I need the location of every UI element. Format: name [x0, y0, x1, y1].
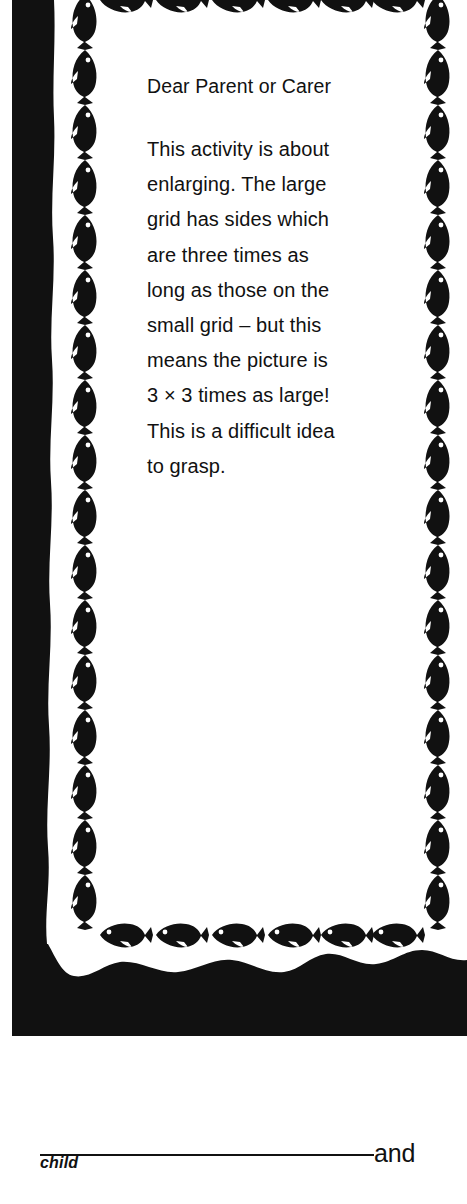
- fish-icon: [268, 0, 321, 12]
- fish-border-left: [70, 0, 100, 946]
- signature-block: and: [0, 1036, 467, 1204]
- fish-border-right: [423, 0, 453, 946]
- fish-border-bottom: [98, 921, 428, 955]
- letter-body-paragraph: This activity is about enlarging. The la…: [147, 132, 417, 484]
- worksheet-page: Dear Parent or Carer This activity is ab…: [0, 0, 467, 1204]
- signature-row: and: [40, 1130, 460, 1164]
- fish-icon: [100, 0, 153, 12]
- signature-caption-child: child: [40, 1154, 78, 1172]
- signature-connector-label: and: [374, 1141, 415, 1166]
- parent-note-panel: Dear Parent or Carer This activity is ab…: [0, 0, 467, 1036]
- fish-icon: [321, 0, 374, 12]
- signature-write-line[interactable]: [40, 1154, 374, 1156]
- letter-salutation: Dear Parent or Carer: [147, 74, 417, 98]
- fish-icon: [156, 0, 209, 12]
- fish-icon: [372, 0, 425, 12]
- fish-border-top: [98, 0, 428, 20]
- letter-text-block: Dear Parent or Carer This activity is ab…: [147, 74, 417, 484]
- fish-icon: [212, 0, 265, 12]
